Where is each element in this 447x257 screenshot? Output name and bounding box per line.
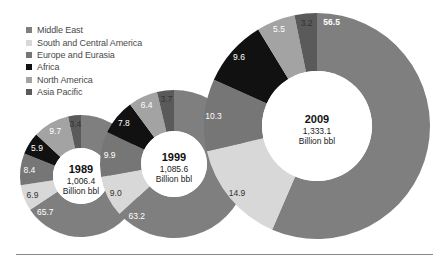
legend-swatch-north-america xyxy=(26,77,32,83)
slice-label-europe-eurasia: 9.9 xyxy=(104,150,116,160)
legend-swatch-middle-east xyxy=(26,27,32,33)
center-total-value: 1,006.4 xyxy=(67,176,96,186)
legend-swatch-africa xyxy=(26,64,32,70)
center-unit-label: Billion bbl xyxy=(156,174,192,184)
legend-item-middle-east: Middle East xyxy=(26,24,142,36)
center-year-label: 2009 xyxy=(305,113,329,125)
legend-label: North America xyxy=(37,75,93,85)
slice-label-asia-pacific: 3.7 xyxy=(161,94,173,104)
center-unit-label: Billion bbl xyxy=(63,186,99,196)
slice-label-south-central-america: 14.9 xyxy=(229,188,246,198)
legend-label: Africa xyxy=(37,62,59,72)
legend-item-europe-eurasia: Europe and Eurasia xyxy=(26,49,142,61)
slice-label-asia-pacific: 3.4 xyxy=(70,119,82,129)
legend-label: Europe and Eurasia xyxy=(37,50,115,60)
slice-label-africa: 7.8 xyxy=(118,118,130,128)
legend-item-africa: Africa xyxy=(26,61,142,73)
slice-label-africa: 5.9 xyxy=(31,143,43,153)
slice-label-south-central-america: 6.9 xyxy=(27,190,39,200)
slice-label-europe-eurasia: 8.4 xyxy=(23,165,35,175)
legend-swatch-asia-pacific xyxy=(26,89,32,95)
legend-swatch-europe-eurasia xyxy=(26,52,32,58)
slice-label-north-america: 6.4 xyxy=(141,100,153,110)
slice-label-middle-east: 56.5 xyxy=(323,17,340,27)
legend-item-asia-pacific: Asia Pacific xyxy=(26,86,142,98)
legend: Middle East South and Central America Eu… xyxy=(26,24,142,98)
slice-label-middle-east: 63.2 xyxy=(129,211,146,221)
legend-item-north-america: North America xyxy=(26,74,142,86)
legend-label: Middle East xyxy=(37,25,83,35)
slice-label-south-central-america: 9.0 xyxy=(110,188,122,198)
slice-label-north-america: 9.7 xyxy=(49,126,61,136)
legend-label: South and Central America xyxy=(37,38,142,48)
legend-item-south-central-america: South and Central America xyxy=(26,36,142,48)
center-total-value: 1,085.6 xyxy=(160,164,189,174)
center-unit-label: Billion bbl xyxy=(299,136,335,146)
slice-label-middle-east: 65.7 xyxy=(37,207,54,217)
slice-label-asia-pacific: 3.2 xyxy=(301,18,313,28)
donut-2009: 56.514.910.39.65.53.220091,333.1Billion … xyxy=(204,13,430,239)
legend-swatch-south-central-america xyxy=(26,40,32,46)
center-year-label: 1999 xyxy=(162,151,186,163)
slice-label-africa: 9.6 xyxy=(233,52,245,62)
center-total-value: 1,333.1 xyxy=(303,126,332,136)
legend-label: Asia Pacific xyxy=(37,87,82,97)
slice-label-north-america: 5.5 xyxy=(273,24,285,34)
bottom-rule-divider xyxy=(16,254,433,255)
slice-label-europe-eurasia: 10.3 xyxy=(205,111,222,121)
center-year-label: 1989 xyxy=(69,163,93,175)
